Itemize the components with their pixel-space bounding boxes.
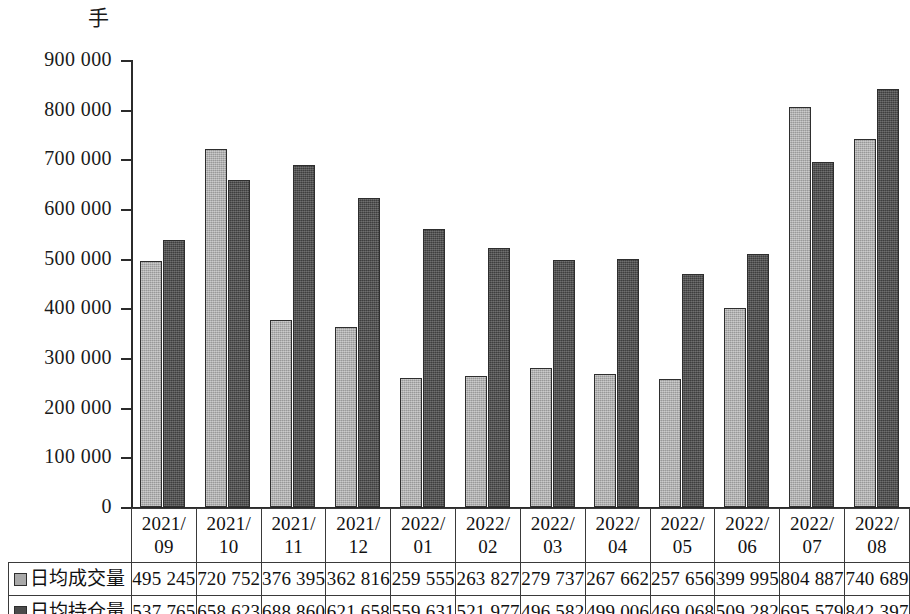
bar-group: [326, 60, 391, 507]
table-cell-series-0-2021-11: 376 395: [261, 563, 326, 596]
period-header-cell: 2021/10: [196, 509, 261, 563]
bar-2021-10-series-1: [228, 180, 250, 507]
plot-area: 900 000800 000700 000600 000500 000400 0…: [131, 60, 910, 508]
y-axis-unit-label: 手: [88, 4, 109, 32]
period-year: 2022/: [521, 512, 585, 535]
bar-2021-09-series-0: [140, 261, 162, 507]
table-cell-series-0-2022-02: 263 827: [456, 563, 521, 596]
table-cell-series-0-2021-12: 362 816: [326, 563, 391, 596]
period-header-cell: 2022/03: [520, 509, 585, 563]
period-month: 11: [262, 535, 326, 558]
y-axis-tick-label: 300 000: [44, 347, 112, 367]
series-1-name: 日均持仓量: [30, 600, 125, 614]
legend-label-series-0: 日均成交量: [9, 563, 132, 596]
y-axis-tick-label: 900 000: [44, 49, 112, 69]
table-cell-series-0-2022-01: 259 555: [391, 563, 456, 596]
period-header-cell: 2021/09: [132, 509, 197, 563]
period-month: 04: [586, 535, 650, 558]
bar-2022-04-series-1: [617, 259, 639, 507]
period-year: 2021/: [132, 512, 196, 535]
period-header-cell: 2022/02: [456, 509, 521, 563]
period-header-cell: 2021/12: [326, 509, 391, 563]
period-year: 2022/: [715, 512, 779, 535]
table-cell-series-0-2022-06: 399 995: [715, 563, 780, 596]
table-cell-series-1-2022-01: 559 631: [391, 596, 456, 614]
bar-group: [456, 60, 521, 507]
period-month: 12: [326, 535, 390, 558]
bar-2021-09-series-1: [163, 240, 185, 507]
table-cell-series-1-2021-12: 621 658: [326, 596, 391, 614]
y-axis-tick-label: 700 000: [44, 148, 112, 168]
table-cell-series-1-2022-06: 509 282: [715, 596, 780, 614]
bar-2022-07-series-0: [789, 107, 811, 507]
bar-2022-03-series-1: [553, 260, 575, 507]
period-month: 01: [391, 535, 455, 558]
bar-group: [780, 60, 845, 507]
period-year: 2021/: [262, 512, 326, 535]
series-0-name: 日均成交量: [30, 567, 125, 589]
bar-group: [650, 60, 715, 507]
table-cell-series-1-2022-04: 499 006: [585, 596, 650, 614]
bar-group: [261, 60, 326, 507]
bar-2021-12-series-0: [335, 327, 357, 507]
bar-group: [845, 60, 910, 507]
period-month: 07: [780, 535, 844, 558]
period-year: 2021/: [197, 512, 261, 535]
y-axis-tick-label: 400 000: [44, 297, 112, 317]
y-axis-tick-label: 800 000: [44, 99, 112, 119]
bar-2022-08-series-1: [877, 89, 899, 507]
chart-page: 手 900 000800 000700 000600 000500 000400…: [0, 0, 910, 614]
period-year: 2022/: [780, 512, 844, 535]
table-cell-series-1-2022-02: 521 977: [456, 596, 521, 614]
bar-2021-12-series-1: [358, 198, 380, 507]
bar-2022-05-series-0: [659, 379, 681, 507]
table-cell-series-0-2021-09: 495 245: [132, 563, 197, 596]
period-header-cell: 2022/01: [391, 509, 456, 563]
table-cell-series-1-2022-07: 695 579: [780, 596, 845, 614]
period-header-cell: 2021/11: [261, 509, 326, 563]
period-year: 2021/: [326, 512, 390, 535]
period-year: 2022/: [845, 512, 909, 535]
legend-swatch-icon-series-1: [14, 606, 27, 614]
period-month: 03: [521, 535, 585, 558]
bar-group: [715, 60, 780, 507]
bar-2021-11-series-0: [270, 320, 292, 507]
bar-2022-08-series-0: [854, 139, 876, 507]
bar-2022-04-series-0: [594, 374, 616, 507]
y-axis-tick-label: 200 000: [44, 397, 112, 417]
bar-2022-02-series-0: [465, 376, 487, 507]
bar-2022-06-series-0: [724, 308, 746, 507]
period-header-cell: 2022/04: [585, 509, 650, 563]
bar-2021-10-series-0: [205, 149, 227, 507]
period-month: 06: [715, 535, 779, 558]
table-cell-series-1-2021-09: 537 765: [132, 596, 197, 614]
legend-label-series-1: 日均持仓量: [9, 596, 132, 614]
legend-swatch-icon-series-0: [14, 573, 27, 586]
table-cell-series-0-2022-08: 740 689: [845, 563, 910, 596]
bar-2022-01-series-1: [423, 229, 445, 507]
period-header-cell: 2022/05: [650, 509, 715, 563]
y-axis-tick-label: 500 000: [44, 248, 112, 268]
table-cell-series-1-2021-10: 658 623: [196, 596, 261, 614]
table-cell-series-0-2022-04: 267 662: [585, 563, 650, 596]
period-month: 02: [456, 535, 520, 558]
table-cell-series-0-2021-10: 720 752: [196, 563, 261, 596]
table-cell-series-0-2022-07: 804 887: [780, 563, 845, 596]
table-cell-series-0-2022-03: 279 737: [520, 563, 585, 596]
bar-group: [521, 60, 586, 507]
period-month: 09: [132, 535, 196, 558]
bar-2022-06-series-1: [747, 254, 769, 507]
y-axis-tick-label: 100 000: [44, 446, 112, 466]
bar-2022-03-series-0: [530, 368, 552, 507]
bar-group: [196, 60, 261, 507]
y-axis-tick-label: 600 000: [44, 198, 112, 218]
period-header-cell: 2022/08: [845, 509, 910, 563]
table-cell-series-1-2021-11: 688 860: [261, 596, 326, 614]
bar-group: [391, 60, 456, 507]
table-cell-series-1-2022-08: 842 397: [845, 596, 910, 614]
bar-2022-05-series-1: [682, 274, 704, 507]
period-month: 10: [197, 535, 261, 558]
table-cell-series-1-2022-03: 496 582: [520, 596, 585, 614]
bar-2022-07-series-1: [812, 162, 834, 507]
period-month: 05: [651, 535, 715, 558]
